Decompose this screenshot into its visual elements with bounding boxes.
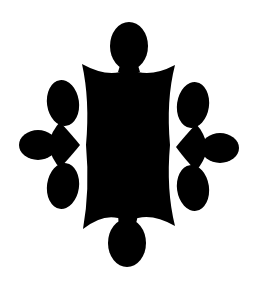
right-cluster [174,80,239,213]
ornament-figure [0,0,254,286]
bottom-lobe [108,215,146,267]
top-lobe [110,22,148,72]
ornament-canvas: Black symmetrical ornamental cartouche w… [0,0,254,286]
central-body [82,64,175,229]
left-cluster [19,78,82,211]
